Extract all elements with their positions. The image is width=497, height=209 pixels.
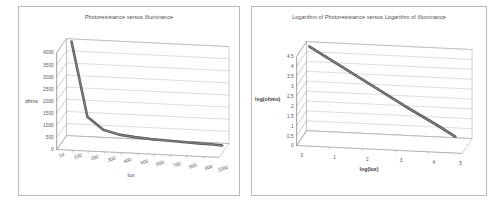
x-tick-label: 300 [107, 155, 116, 162]
x-tick-label: 700 [172, 161, 181, 168]
y-tick-label: 0 [291, 144, 294, 149]
x-tick-label: 900 [204, 164, 213, 171]
x-tick-label: 500 [140, 158, 149, 165]
plot-area-right [297, 42, 473, 155]
x-tick-label: 4 [432, 160, 435, 165]
x-tick-label: 400 [123, 157, 132, 164]
y-tick-label: 3 [291, 84, 294, 89]
y-tick-label: 2500 [43, 87, 54, 92]
y-tick-label: 500 [46, 135, 54, 140]
y-tick-label: 1500 [43, 111, 54, 116]
chart-panel-right: Logarithm of Photoresistance versus Loga… [251, 6, 487, 196]
x-tick-label: 3 [400, 158, 403, 163]
plot-area-left [57, 39, 229, 159]
y-tick-label: 3500 [43, 63, 54, 68]
y-tick-label: 1000 [43, 123, 54, 128]
y-axis-label-right: log(ohms) [255, 96, 281, 102]
y-tick-label: 1.5 [287, 114, 294, 119]
y-tick-label: 3000 [43, 75, 54, 80]
x-tick-label: 1 [333, 155, 336, 160]
y-tick-label: 0.5 [287, 134, 294, 139]
y-tick-label: 3.5 [287, 74, 294, 79]
y-tick-label: 2000 [43, 99, 54, 104]
x-tick-label: 600 [156, 160, 165, 167]
chart-right-canvas: 4.5 4 3.5 3 2.5 2 1.5 1 0.5 0 log(ohms) … [252, 7, 486, 195]
chart-left-canvas: 4000 3500 3000 2500 2000 1500 1000 500 0… [19, 7, 239, 195]
x-tick-label: 5 [459, 161, 462, 166]
x-tick-label: 2 [366, 157, 369, 162]
x-tick-label: 800 [188, 162, 197, 169]
y-tick-label: 2.5 [287, 94, 294, 99]
y-tick-label: 4000 [43, 50, 54, 55]
y-tick-label: 0 [51, 147, 54, 152]
y-tick-label: 1 [291, 124, 294, 129]
x-tick-labels-right: 0 1 2 3 4 5 [301, 153, 463, 166]
y-tick-label: 2 [291, 104, 294, 109]
x-tick-label: 0 [301, 153, 304, 158]
x-tick-label: 1000 [217, 164, 229, 172]
x-axis-label-right: log(lux) [360, 166, 379, 172]
x-tick-label: 200 [90, 154, 99, 161]
y-tick-labels-left: 4000 3500 3000 2500 2000 1500 1000 500 0 [43, 50, 54, 152]
chart-panel-left: Photoresistance versus Illuminance [18, 6, 240, 196]
y-tick-label: 4 [291, 64, 294, 69]
x-tick-label: 100 [73, 153, 82, 160]
x-tick-label: 10 [58, 152, 65, 158]
y-tick-label: 4.5 [287, 54, 294, 59]
y-tick-labels-right: 4.5 4 3.5 3 2.5 2 1.5 1 0.5 0 [287, 54, 294, 148]
x-axis-label-left: lux [128, 172, 135, 178]
y-axis-label-left: ohms [25, 98, 38, 104]
